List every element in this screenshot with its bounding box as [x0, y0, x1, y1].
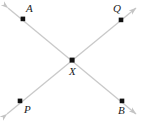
geometry-canvas: [0, 0, 143, 121]
point-dot-b: [120, 99, 125, 104]
point-label-p: P: [24, 104, 31, 115]
point-label-a: A: [26, 3, 33, 14]
point-dot-q: [119, 18, 124, 23]
point-dot-p: [18, 99, 23, 104]
point-label-b: B: [118, 105, 125, 116]
point-dot-x: [70, 58, 75, 63]
geometry-figure: A Q X P B: [0, 0, 143, 121]
point-label-x: X: [69, 66, 76, 77]
point-label-q: Q: [113, 3, 121, 14]
point-dot-a: [21, 17, 26, 22]
